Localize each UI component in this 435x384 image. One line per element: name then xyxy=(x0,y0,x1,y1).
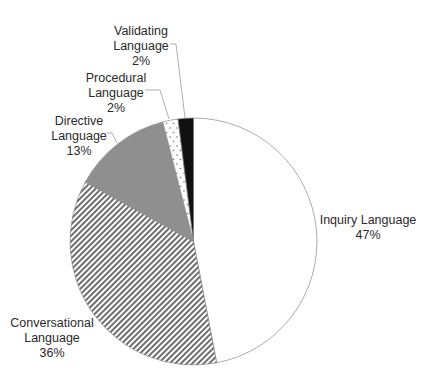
directive-label-line1: Directive xyxy=(48,114,110,129)
validating-label-value: 2% xyxy=(110,54,172,69)
validating-label-line2: Language xyxy=(110,39,172,54)
conversational-label-line1: Conversational xyxy=(8,316,96,331)
directive-label-value: 13% xyxy=(48,144,110,159)
procedural-label: Procedural Language 2% xyxy=(84,71,148,116)
inquiry-label: Inquiry Language 47% xyxy=(318,213,418,243)
procedural-leader-line xyxy=(145,90,169,119)
validating-label: Validating Language 2% xyxy=(110,24,172,69)
procedural-label-line1: Procedural xyxy=(84,71,148,86)
pie-slice-inquiry-language xyxy=(194,118,318,363)
validating-label-line1: Validating xyxy=(110,24,172,39)
conversational-label: Conversational Language 36% xyxy=(8,316,96,361)
inquiry-label-value: 47% xyxy=(318,228,418,243)
procedural-label-line2: Language xyxy=(84,86,148,101)
inquiry-label-line1: Inquiry Language xyxy=(318,213,418,228)
validating-leader-line xyxy=(170,44,185,118)
directive-label-line2: Language xyxy=(48,129,110,144)
conversational-label-line2: Language xyxy=(8,331,96,346)
directive-label: Directive Language 13% xyxy=(48,114,110,159)
conversational-label-value: 36% xyxy=(8,346,96,361)
